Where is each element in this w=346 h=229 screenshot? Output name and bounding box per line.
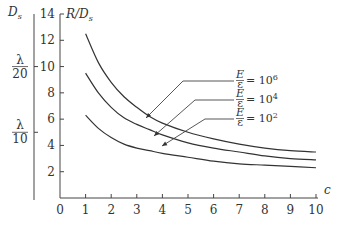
legend-frac-den: ε [237,116,243,129]
secondary-tick-numerator: λ [16,118,24,132]
x-tick-label: 7 [235,203,243,217]
series-line [86,115,316,168]
legend-annotations: Eε= 106Eε= 104Eε= 102 [146,68,278,146]
y-tick-label: 2 [47,165,55,179]
y-tick-label: 4 [47,138,55,152]
x-axis-title: c [324,183,331,197]
secondary-tick-denominator: 10 [12,132,27,146]
secondary-tick-numerator: λ [16,53,24,67]
x-tick-label: 0 [56,203,64,217]
x-tick-label: 5 [184,203,192,217]
secondary-tick-denominator: 20 [12,67,27,81]
y-tick-label: 6 [47,112,55,126]
x-tick-label: 6 [210,203,218,217]
chart: Ds λ20λ10 R/Ds 2468101214 c 012345678910… [0,0,346,229]
leader-line [154,100,234,136]
secondary-axis-title: Ds [7,5,22,21]
series-curves [86,34,316,168]
leader-line [162,119,234,146]
x-tick-label: 3 [133,203,141,217]
x-tick-label: 8 [261,203,269,217]
y-tick-label: 8 [47,86,55,100]
y-axis: R/Ds 2468101214 [40,7,93,198]
x-tick-label: 1 [82,203,90,217]
legend-label: = 104 [246,92,278,106]
leader-line [146,81,234,118]
x-tick-label: 4 [159,203,167,217]
y-axis-title: R/Ds [65,7,93,23]
x-tick-label: 2 [107,203,115,217]
series-line [86,73,316,160]
x-tick-label: 10 [308,203,323,217]
y-tick-label: 10 [40,60,55,74]
series-line [86,34,316,152]
arrowhead-icon [162,141,167,146]
y-tick-label: 14 [40,7,56,21]
secondary-axis: Ds λ20λ10 [7,5,38,200]
legend-label: = 102 [246,111,278,125]
y-tick-label: 12 [40,33,55,47]
x-tick-label: 9 [287,203,295,217]
legend-label: = 106 [246,73,278,87]
x-axis: c 012345678910 [56,183,331,217]
